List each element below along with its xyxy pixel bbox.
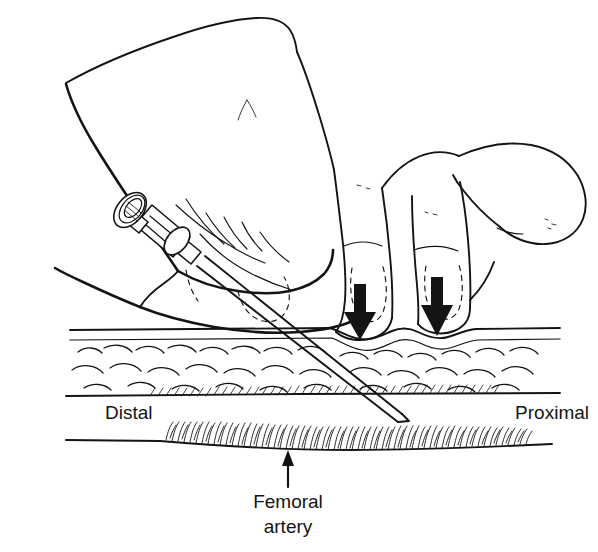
canvas-background bbox=[0, 0, 598, 552]
label-proximal: Proximal bbox=[515, 402, 589, 423]
label-femoral-artery-line1: Femoral bbox=[253, 491, 323, 512]
illustration-canvas: Femoral artery puncture technique Line d… bbox=[0, 0, 598, 552]
femoral-artery-illustration: Femoral artery puncture technique Line d… bbox=[0, 0, 598, 552]
label-distal: Distal bbox=[105, 402, 153, 423]
label-femoral-artery-line2: artery bbox=[264, 516, 313, 537]
